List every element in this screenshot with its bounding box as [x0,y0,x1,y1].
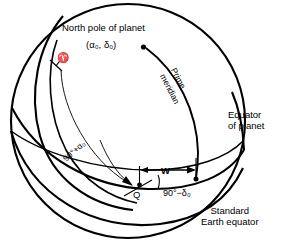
equator-of-planet-label-line2: of planet [228,120,264,131]
prime-meridian-arc [146,48,198,178]
w-arrow-head-left [140,167,148,173]
planet-polar-circle-left-arc [35,16,133,210]
north-pole-point [141,44,146,49]
prime-meridian-angle-label: W [161,166,170,177]
right-ascension-measure-arrow [61,70,127,182]
declination-angle-label: 90°−δ₀ [163,188,191,198]
standard-earth-equator-label-line2: Earth equator [201,216,259,227]
equator-of-planet-label: Equator of planet [228,110,264,131]
celestial-sphere-outline [11,4,245,238]
standard-earth-equator-label-line1: Standard [211,205,250,216]
celestial-sphere-diagram: North pole of planet (α₀, δ₀) ♈ Prime me… [0,0,288,241]
standard-earth-equator-label: Standard Earth equator [201,206,259,227]
aries-symbol-icon: ♈ [57,52,69,63]
right-ascension-arrow-head [122,176,133,186]
equator-of-planet-front-arc [12,108,244,189]
north-pole-label: North pole of planet [62,23,145,34]
node-point-label: Q [133,190,140,201]
w-arrow-head-right [187,167,196,174]
equator-of-planet-label-line1: Equator [228,109,261,120]
declination-angle-arc [158,175,160,189]
right-ascension-measure-arrow-secondary [100,140,127,181]
pole-coordinates-label: (α₀, δ₀) [86,40,116,51]
